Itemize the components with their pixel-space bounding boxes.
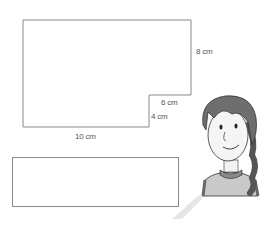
l-shape-outline	[23, 20, 191, 127]
base-label: 10 cm	[75, 132, 96, 141]
answer-box[interactable]	[12, 157, 179, 207]
girl-character-icon	[203, 96, 258, 196]
height-label: 8 cm	[196, 47, 213, 56]
step-height-label: 4 cm	[151, 112, 168, 121]
step-width-label: 6 cm	[161, 98, 178, 107]
